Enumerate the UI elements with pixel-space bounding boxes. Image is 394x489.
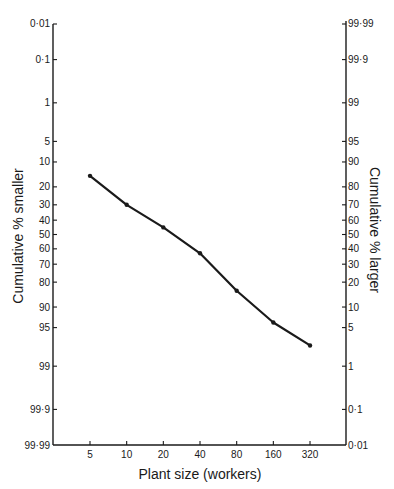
right-tick-label: 30: [348, 259, 360, 270]
left-tick-label: 90: [39, 302, 51, 313]
plot-frame: [53, 21, 346, 445]
y-axis-title-left: Cumulative % smaller: [10, 168, 26, 304]
data-point: [308, 343, 312, 347]
left-tick-label: 60: [39, 243, 51, 254]
left-tick-label: 95: [39, 322, 51, 333]
x-tick-label: 160: [265, 449, 282, 460]
right-tick-label: 5: [348, 322, 354, 333]
data-point: [234, 289, 238, 293]
right-tick-label: 99·9: [348, 54, 368, 65]
data-point: [124, 203, 128, 207]
right-tick-label: 20: [348, 277, 360, 288]
left-tick-label: 99·99: [24, 440, 50, 451]
left-tick-label: 5: [44, 136, 50, 147]
left-tick-label: 0·01: [30, 18, 50, 29]
left-tick-label: 0·1: [36, 54, 51, 65]
left-tick-label: 80: [39, 277, 51, 288]
y-axis-title-right: Cumulative % larger: [367, 167, 383, 293]
right-tick-label: 0·1: [348, 404, 363, 415]
right-tick-label: 1: [348, 361, 354, 372]
left-tick-label: 20: [39, 181, 51, 192]
data-point: [88, 174, 92, 178]
right-tick-label: 10: [348, 302, 360, 313]
left-tick-label: 99·9: [30, 404, 50, 415]
left-tick-label: 10: [39, 156, 51, 167]
data-point: [198, 251, 202, 255]
data-series: [88, 174, 312, 348]
right-tick-label: 99·99: [348, 18, 374, 29]
x-tick-label: 40: [194, 449, 206, 460]
left-tick-label: 40: [39, 215, 51, 226]
x-axis: 510204080160320: [87, 441, 319, 460]
right-tick-label: 40: [348, 243, 360, 254]
left-tick-label: 99: [39, 361, 51, 372]
left-y-axis: 0·010·115102030405060708090959999·999·99: [24, 18, 57, 450]
x-axis-title: Plant size (workers): [139, 466, 262, 482]
probability-chart: 0·010·115102030405060708090959999·999·99…: [0, 0, 394, 489]
data-point: [271, 320, 275, 324]
right-tick-label: 95: [348, 136, 360, 147]
right-tick-label: 0·01: [348, 440, 368, 451]
left-tick-label: 30: [39, 199, 51, 210]
right-tick-label: 99: [348, 97, 360, 108]
left-tick-label: 50: [39, 229, 51, 240]
left-tick-label: 1: [44, 97, 50, 108]
x-tick-label: 80: [231, 449, 243, 460]
x-tick-label: 320: [302, 449, 319, 460]
left-tick-label: 70: [39, 259, 51, 270]
data-point: [161, 225, 165, 229]
x-tick-label: 20: [158, 449, 170, 460]
x-tick-label: 5: [87, 449, 93, 460]
right-tick-label: 70: [348, 199, 360, 210]
right-tick-label: 60: [348, 215, 360, 226]
series-line: [90, 176, 310, 346]
x-tick-label: 10: [121, 449, 133, 460]
right-tick-label: 50: [348, 229, 360, 240]
right-tick-label: 90: [348, 156, 360, 167]
right-tick-label: 80: [348, 181, 360, 192]
